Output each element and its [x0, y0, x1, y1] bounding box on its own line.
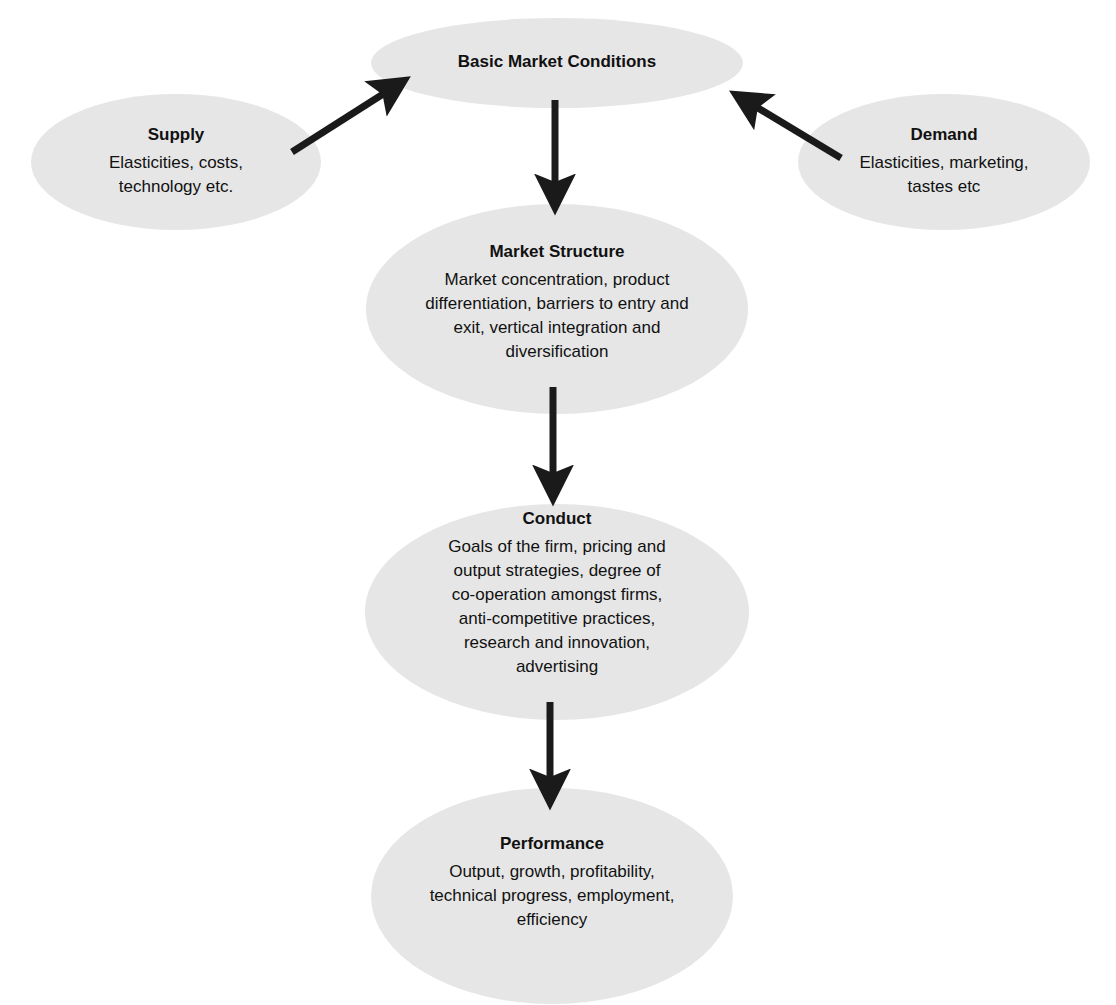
node-title: Performance [500, 834, 604, 854]
node-description: Goals of the firm, pricing and output st… [448, 535, 665, 679]
node-title: Demand [910, 125, 977, 145]
node-description: Output, growth, profitability, technical… [430, 860, 675, 932]
node-description: Elasticities, marketing, tastes etc [859, 151, 1028, 199]
node-title: Market Structure [489, 242, 624, 262]
node-performance: Performance Output, growth, profitabilit… [372, 834, 732, 932]
node-title: Supply [148, 125, 205, 145]
node-description: Elasticities, costs, technology etc. [109, 151, 243, 199]
node-demand: Demand Elasticities, marketing, tastes e… [804, 125, 1084, 199]
node-title: Basic Market Conditions [458, 52, 656, 72]
node-market-structure: Market Structure Market concentration, p… [372, 242, 742, 364]
node-description: Market concentration, product differenti… [425, 268, 688, 364]
node-supply: Supply Elasticities, costs, technology e… [36, 125, 316, 199]
node-basic-market-conditions: Basic Market Conditions [372, 52, 742, 78]
node-conduct: Conduct Goals of the firm, pricing and o… [372, 509, 742, 679]
node-title: Conduct [523, 509, 592, 529]
